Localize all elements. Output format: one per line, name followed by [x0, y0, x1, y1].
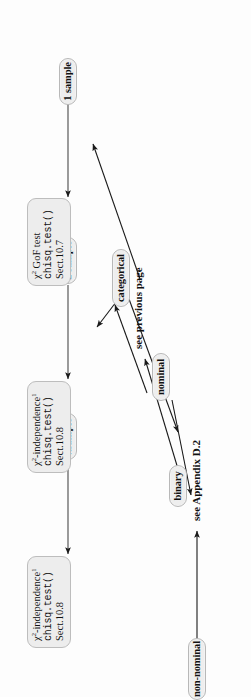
node-categorical[interactable]: categorical — [112, 249, 130, 307]
label-see-appendix-text: see Appendix D.2 — [190, 440, 202, 521]
chi-exponent: 2 — [30, 271, 37, 274]
chi-glyph: χ — [31, 274, 42, 279]
leaf-gof-line3: Sect.10.7 — [54, 240, 66, 279]
leaf-chi2-gof-test[interactable]: χ2 GoF test chisq.test() Sect.10.7 — [27, 198, 71, 286]
node-binary[interactable]: binary — [169, 465, 187, 507]
chi-exponent: 2 — [30, 633, 37, 636]
leaf-gof-line2: chisq.test() — [43, 209, 54, 279]
node-nominal-label: nominal — [156, 359, 167, 395]
label-see-appendix: see Appendix D.2 — [190, 440, 202, 521]
node-non-nominal-label: non-nominal — [192, 641, 203, 697]
gof-text: GoF test — [31, 233, 42, 272]
label-see-previous-page-text: see previous page — [132, 267, 144, 349]
node-binary-label: binary — [173, 471, 184, 500]
leaf-indep2-line3: Sect.10.8 — [54, 427, 66, 466]
leaf-gof-line1: χ2 GoF test — [31, 233, 43, 279]
indep-text: -independence — [31, 572, 42, 633]
footnote-marker: 1 — [30, 569, 37, 572]
leaf-chi2-independence-2sample[interactable]: χ2-independence1 chisq.test() Sect.10.8 — [27, 381, 71, 473]
footnote-marker: 1 — [30, 394, 37, 397]
chi-exponent: 2 — [30, 458, 37, 461]
leaf-indep2-line1: χ2-independence1 — [31, 394, 43, 466]
leaf-indepk-line1: χ2-independence1 — [31, 569, 43, 641]
indep-text: -independence — [31, 397, 42, 458]
leaf-indepk-line2: chisq.test() — [43, 571, 54, 641]
label-see-previous-page: see previous page — [132, 267, 144, 349]
leaf-indepk-line3: Sect.10.8 — [54, 602, 66, 641]
node-nominal[interactable]: nominal — [152, 353, 170, 401]
node-categorical-label: categorical — [116, 254, 127, 302]
node-1-sample[interactable]: 1 sample — [59, 58, 77, 105]
chi-glyph: χ — [31, 636, 42, 641]
chi-glyph: χ — [31, 461, 42, 466]
node-1-sample-label: 1 sample — [63, 62, 74, 101]
leaf-indep2-line2: chisq.test() — [43, 396, 54, 466]
leaf-chi2-independence-ksample[interactable]: χ2-independence1 chisq.test() Sect.10.8 — [27, 556, 71, 648]
node-non-nominal[interactable]: non-nominal — [188, 638, 206, 700]
